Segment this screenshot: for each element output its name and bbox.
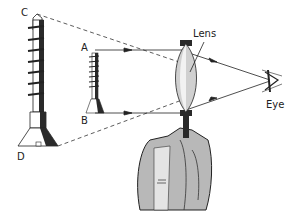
label-eye: Eye [266, 100, 284, 110]
object-screw [86, 53, 104, 113]
label-lens: Lens [193, 29, 216, 39]
label-b: B [81, 116, 88, 126]
eye-icon [262, 70, 282, 92]
virtual-image-screw [18, 14, 58, 146]
lens [176, 40, 197, 116]
label-d: D [17, 152, 25, 162]
label-c: C [21, 8, 28, 18]
lens-diagram: C D A B Lens Eye [0, 0, 298, 218]
parallel-rays [95, 48, 182, 115]
hand [138, 128, 212, 210]
dashed-rays [37, 14, 182, 146]
diagram-canvas [0, 0, 298, 218]
converging-rays [186, 52, 270, 110]
label-a: A [81, 43, 88, 53]
